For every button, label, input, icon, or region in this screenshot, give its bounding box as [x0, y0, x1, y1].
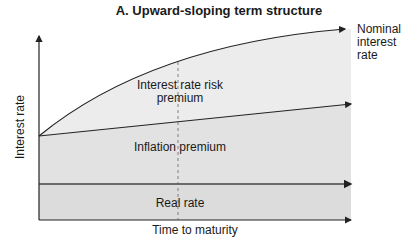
risk-premium-label: Interest rate risk premium	[130, 79, 230, 105]
nominal-rate-label: Nominal interest rate	[357, 23, 401, 62]
inflation-premium-label: Inflation premium	[130, 141, 230, 154]
nominal-label-line: rate	[357, 49, 401, 62]
real-rate-label: Real rate	[130, 197, 230, 210]
y-axis-label: Interest rate	[13, 87, 27, 167]
x-axis-label: Time to maturity	[150, 224, 240, 237]
